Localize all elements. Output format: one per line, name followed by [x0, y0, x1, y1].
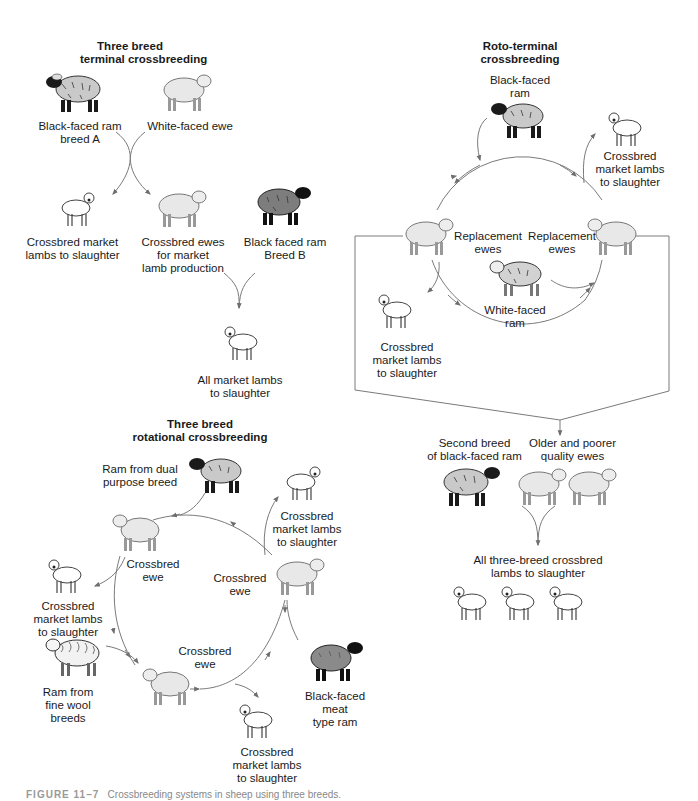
- label-white-ewe: White-faced ewe: [140, 120, 240, 133]
- label-ram-a: Black-faced ram breed A: [30, 120, 130, 146]
- older-ewe-1-icon: [515, 462, 571, 508]
- label-ram-b: Black faced ram Breed B: [235, 236, 335, 262]
- roto-lamb-left-icon: [375, 290, 417, 330]
- label-crossbred-ewes: Crossbred ewes for market lamb productio…: [133, 236, 233, 275]
- label-older-ewes: Older and poorer quality ewes: [520, 437, 625, 463]
- roto-title: Roto-terminal crossbreeding: [470, 40, 570, 66]
- roto-black-faced-ram-icon: [487, 95, 547, 141]
- label-roto-lambs-top: Crossbred market lambs to slaughter: [580, 150, 680, 189]
- label-crossbred-ewe-right: Crossbred ewe: [205, 572, 275, 598]
- label-crossbred-ewe-left: Crossbred ewe: [118, 558, 188, 584]
- rotational-lamb-bottom-icon: [236, 700, 278, 740]
- label-all-market-lambs: All market lambs to slaughter: [190, 374, 290, 400]
- crossbred-ewe-icon: [155, 184, 211, 230]
- second-breed-ram-icon: [440, 460, 504, 510]
- crossbred-ewe-left-icon: [110, 508, 162, 554]
- label-ram-dual: Ram from dual purpose breed: [100, 463, 180, 489]
- label-roto-lambs-left: Crossbred market lambs to slaughter: [362, 341, 452, 380]
- white-faced-ewe-icon: [160, 68, 216, 114]
- three-breed-lamb-2-icon: [498, 582, 540, 622]
- roto-lamb-top-icon: [605, 108, 647, 148]
- older-ewe-2-icon: [565, 462, 621, 508]
- white-faced-ram-icon: [486, 253, 546, 299]
- black-faced-ram-icon: [42, 67, 107, 115]
- label-meat-type-ram: Black-faced meat type ram: [300, 690, 370, 729]
- label-white-faced-ram: White-faced ram: [475, 304, 555, 330]
- label-rotational-lambs-top: Crossbred market lambs to slaughter: [262, 510, 352, 549]
- crossbred-ewe-right-icon: [273, 552, 329, 598]
- label-terminal-lambs: Crossbred market lambs to slaughter: [20, 236, 125, 262]
- dual-purpose-ram-icon: [185, 450, 245, 496]
- figure-caption-text: Crossbreeding systems in sheep using thr…: [108, 789, 341, 800]
- terminal-title: Three breed terminal crossbreeding: [80, 40, 180, 66]
- replacement-ewe-right-icon: [584, 212, 640, 258]
- fine-wool-ram-icon: [43, 632, 103, 680]
- three-breed-lamb-3-icon: [546, 582, 588, 622]
- meat-type-ram-icon: [309, 636, 365, 684]
- figure-label: FIGURE 11–7: [26, 789, 99, 800]
- three-breed-lamb-1-icon: [450, 582, 492, 622]
- crossbred-ewe-bottom-icon: [140, 662, 192, 708]
- rotational-lamb-left-icon: [45, 555, 87, 595]
- rotational-title: Three breed rotational crossbreeding: [130, 418, 270, 444]
- label-rotational-lambs-bottom: Crossbred market lambs to slaughter: [222, 746, 312, 785]
- all-market-lambs-icon: [221, 322, 263, 362]
- figure-caption: FIGURE 11–7 Crossbreeding systems in she…: [26, 789, 341, 800]
- market-lamb-icon: [56, 188, 98, 228]
- black-faced-ram-b-icon: [255, 180, 315, 228]
- label-all-three-breed-lambs: All three-breed crossbred lambs to slaug…: [468, 554, 608, 580]
- label-ram-fine-wool: Ram from fine wool breeds: [33, 686, 103, 725]
- rotational-lamb-top-icon: [283, 462, 325, 502]
